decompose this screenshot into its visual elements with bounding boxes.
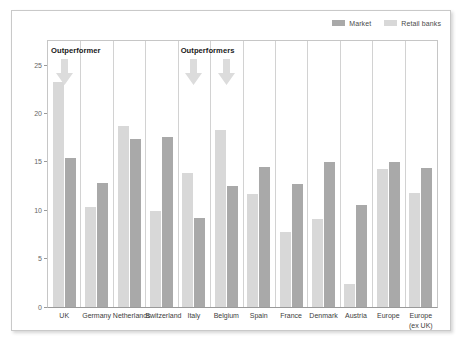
bar-retail-banks	[377, 169, 388, 307]
bar-market	[130, 139, 141, 307]
chart-figure: Market Retail banks 0510152025 Outperfor…	[11, 10, 451, 331]
bar-retail-banks	[118, 126, 129, 307]
x-axis-label-sub: (ex UK)	[405, 321, 437, 331]
x-axis-label: UK	[48, 311, 80, 321]
bar-market	[65, 158, 76, 307]
x-axis-label: Netherlands	[113, 311, 145, 321]
bar-market	[356, 205, 367, 307]
bar-group	[145, 41, 177, 307]
bar-market	[292, 184, 303, 307]
x-axis-label: Belgium	[210, 311, 242, 321]
bar-retail-banks	[182, 173, 193, 307]
outperformer-arrow-icon	[185, 59, 202, 85]
bar-retail-banks	[280, 232, 291, 307]
outperformer-arrow-icon	[218, 59, 235, 85]
bar-retail-banks	[409, 193, 420, 307]
bar-group	[307, 41, 339, 307]
y-axis-tick-label: 20	[34, 110, 42, 117]
x-axis-label: Switzerland	[145, 311, 177, 321]
y-axis-tick-label: 15	[34, 158, 42, 165]
bar-market	[389, 162, 400, 307]
bar-retail-banks	[215, 130, 226, 307]
x-axis-label: Europe(ex UK)	[405, 311, 437, 330]
x-axis-label: Denmark	[307, 311, 339, 321]
legend-entry-retail-banks: Retail banks	[384, 20, 441, 27]
x-axis-label: Spain	[243, 311, 275, 321]
x-axis-label: Italy	[178, 311, 210, 321]
bar-market	[421, 168, 432, 307]
bar-market	[324, 162, 335, 307]
bar-group	[113, 41, 145, 307]
legend-label-retail-banks: Retail banks	[401, 20, 441, 27]
bars-layer: OutperformerOutperformers	[48, 41, 437, 307]
bar-group	[372, 41, 404, 307]
x-axis: UKGermanyNetherlandsSwitzerlandItalyBelg…	[48, 311, 437, 333]
bar-retail-banks	[312, 219, 323, 307]
legend-swatch-market	[332, 20, 345, 26]
y-axis: 0510152025	[12, 40, 47, 308]
chart-legend: Market Retail banks	[332, 17, 441, 29]
annotation-label: Outperformers	[181, 46, 235, 55]
bar-retail-banks	[150, 211, 161, 307]
x-axis-label: Germany	[80, 311, 112, 321]
bar-group	[80, 41, 112, 307]
bar-retail-banks	[53, 82, 64, 307]
legend-label-market: Market	[349, 20, 371, 27]
legend-entry-market: Market	[332, 20, 371, 27]
x-axis-label: Europe	[372, 311, 404, 321]
bar-group	[405, 41, 437, 307]
bar-market	[97, 183, 108, 307]
x-axis-label: France	[275, 311, 307, 321]
bar-retail-banks	[247, 194, 258, 307]
bar-group	[243, 41, 275, 307]
annotation-label: Outperformer	[51, 46, 101, 55]
bar-market	[227, 186, 238, 307]
x-axis-label: Austria	[340, 311, 372, 321]
y-axis-tick-label: 10	[34, 206, 42, 213]
y-axis-tick-label: 25	[34, 61, 42, 68]
bar-market	[162, 137, 173, 307]
bar-market	[194, 218, 205, 307]
bar-retail-banks	[85, 207, 96, 307]
outperformer-arrow-icon	[56, 59, 73, 85]
legend-swatch-retail-banks	[384, 20, 397, 26]
bar-group	[340, 41, 372, 307]
bar-retail-banks	[344, 284, 355, 307]
bar-market	[259, 167, 270, 307]
bar-group	[275, 41, 307, 307]
y-axis-tick-label: 0	[38, 303, 42, 310]
y-axis-tick-label: 5	[38, 255, 42, 262]
